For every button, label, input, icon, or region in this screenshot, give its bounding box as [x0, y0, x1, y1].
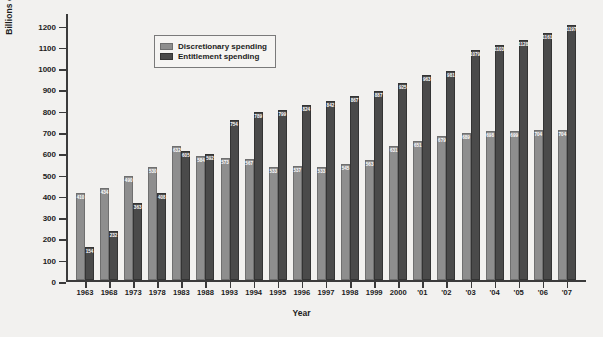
- bar-discretionary: 490: [124, 176, 133, 280]
- x-tick-label: '04: [489, 288, 499, 297]
- bar-discretionary: 651: [413, 141, 422, 280]
- bar-value-label: 754: [230, 123, 238, 128]
- bar-value-label: 545: [342, 167, 350, 172]
- bar-value-label: 1197: [566, 28, 576, 33]
- y-axis-title: Billions of constant 1996 dollars: [4, 0, 14, 58]
- x-tick-label: '06: [538, 288, 548, 297]
- x-tick-label: 1978: [149, 288, 166, 297]
- bar-value-label: 824: [303, 108, 311, 113]
- bar-entitlement: 789: [254, 112, 263, 280]
- bar-discretionary: 679: [437, 136, 446, 280]
- legend-item-discretionary: Discretionary spending: [160, 42, 267, 51]
- bar-entitlement: 842: [326, 101, 335, 280]
- bar-entitlement: 408: [157, 193, 166, 280]
- y-tick: [59, 218, 66, 220]
- bar-discretionary: 563: [365, 160, 374, 280]
- bar-value-label: 1128: [518, 43, 528, 48]
- y-tick-label: 700: [43, 129, 56, 138]
- bar-discretionary: 533: [269, 167, 278, 280]
- plot-area: 0100200300400500600700800900100011001200…: [66, 14, 586, 282]
- bar-discretionary: 631: [389, 146, 398, 280]
- bar-value-label: 704: [534, 133, 542, 138]
- bar-value-label: 631: [390, 149, 398, 154]
- y-tick: [59, 154, 66, 156]
- bar-entitlement: 754: [230, 120, 239, 280]
- bar-value-label: 563: [366, 163, 374, 168]
- x-axis-title: Year: [0, 308, 603, 318]
- x-tick-label: 1997: [317, 288, 334, 297]
- bar-value-label: 533: [318, 170, 326, 175]
- bar-entitlement: 1197: [567, 25, 576, 280]
- y-tick-label: 200: [43, 235, 56, 244]
- bar-entitlement: 232: [109, 231, 118, 280]
- bar-value-label: 533: [269, 170, 277, 175]
- bar-value-label: 867: [351, 99, 359, 104]
- bar-discretionary: 704: [558, 130, 567, 280]
- bar-entitlement: 824: [302, 105, 311, 280]
- y-tick: [59, 133, 66, 135]
- bar-entitlement: 363: [133, 203, 142, 280]
- bar-value-label: 232: [110, 234, 118, 239]
- bar-value-label: 842: [327, 104, 335, 109]
- x-tick-label: '05: [514, 288, 524, 297]
- bar-value-label: 410: [77, 196, 85, 201]
- bar-entitlement: 1103: [495, 45, 504, 280]
- y-tick: [59, 48, 66, 50]
- y-tick-label: 300: [43, 214, 56, 223]
- bar-discretionary: 410: [76, 193, 85, 280]
- bar-entitlement: 1161: [543, 33, 552, 280]
- y-tick: [59, 282, 66, 284]
- bar-value-label: 679: [438, 139, 446, 144]
- bar-value-label: 434: [101, 191, 109, 196]
- x-tick-label: 1994: [245, 288, 262, 297]
- x-tick-label: '01: [417, 288, 427, 297]
- x-tick-label: 1963: [77, 288, 94, 297]
- bar-value-label: 573: [221, 161, 229, 166]
- bar-value-label: 584: [197, 159, 205, 164]
- x-tick-label: 1983: [173, 288, 190, 297]
- bar-value-label: 1103: [494, 48, 504, 53]
- bar-value-label: 887: [375, 94, 383, 99]
- y-axis-line: [66, 14, 68, 282]
- bar-discretionary: 632: [172, 146, 181, 280]
- y-tick: [59, 239, 66, 241]
- legend-swatch-discretionary-icon: [160, 43, 173, 50]
- y-tick: [59, 197, 66, 199]
- x-tick-label: 1993: [221, 288, 238, 297]
- bar-discretionary: 698: [486, 131, 495, 280]
- bar-value-label: 632: [173, 149, 181, 154]
- bar-discretionary: 537: [293, 166, 302, 280]
- bar-entitlement: 887: [374, 91, 383, 280]
- bar-value-label: 698: [486, 134, 494, 139]
- x-tick-label: '02: [441, 288, 451, 297]
- y-tick-label: 1200: [38, 22, 56, 31]
- bar-value-label: 963: [423, 78, 431, 83]
- bar-value-label: 925: [399, 86, 407, 91]
- bar-value-label: 592: [206, 157, 214, 162]
- legend-label-entitlement: Entitlement spending: [178, 52, 259, 61]
- bar-value-label: 154: [86, 250, 94, 255]
- bar-discretionary: 689: [462, 133, 471, 280]
- legend-label-discretionary: Discretionary spending: [178, 42, 267, 51]
- x-tick-label: 2000: [390, 288, 407, 297]
- y-tick-label: 100: [43, 256, 56, 265]
- y-tick: [59, 176, 66, 178]
- y-tick-label: 600: [43, 150, 56, 159]
- bar-value-label: 981: [447, 74, 455, 79]
- bar-value-label: 699: [510, 134, 518, 139]
- bar-value-label: 789: [254, 115, 262, 120]
- bar-discretionary: 434: [100, 188, 109, 280]
- bar-entitlement: 1079: [471, 50, 480, 280]
- legend-swatch-entitlement-icon: [160, 53, 173, 60]
- bar-value-label: 490: [125, 179, 133, 184]
- x-tick-label: 1988: [197, 288, 214, 297]
- y-tick-label: 800: [43, 107, 56, 116]
- bar-value-label: 1161: [542, 36, 552, 41]
- x-tick-label: 1996: [293, 288, 310, 297]
- bar-value-label: 689: [462, 136, 470, 141]
- x-tick-label: 1999: [366, 288, 383, 297]
- y-tick-label: 400: [43, 192, 56, 201]
- bar-value-label: 530: [149, 170, 157, 175]
- bar-entitlement: 925: [398, 83, 407, 280]
- bar-discretionary: 704: [534, 130, 543, 280]
